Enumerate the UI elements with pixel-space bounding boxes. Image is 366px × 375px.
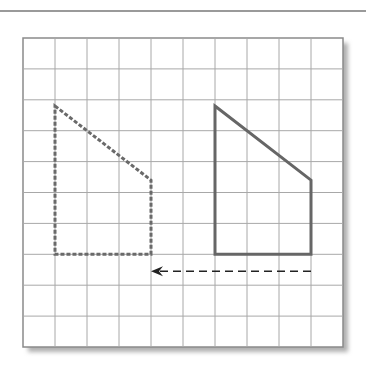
translation-diagram (0, 0, 366, 375)
